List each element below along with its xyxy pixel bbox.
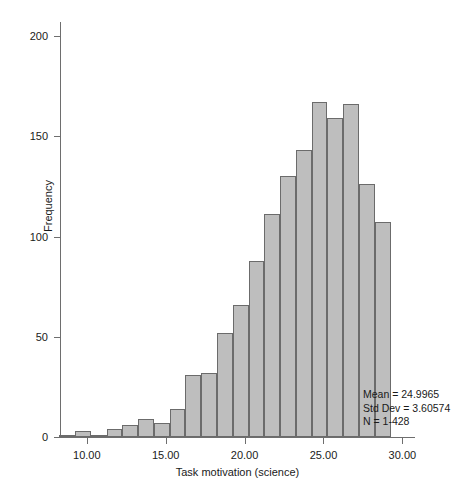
x-axis-tick-label: 15.00	[136, 449, 196, 461]
histogram-bar	[296, 150, 312, 437]
histogram-bar	[201, 373, 217, 437]
x-axis-tick	[166, 437, 167, 444]
y-axis-tick-label: 0	[0, 432, 48, 443]
stat-std-dev: Std Dev = 3.60574	[363, 402, 450, 416]
histogram-bar	[122, 425, 138, 437]
stat-n: N = 1-428	[363, 415, 450, 429]
x-axis-tick	[87, 437, 88, 444]
histogram-bar	[91, 435, 107, 437]
histogram-bar	[138, 419, 154, 437]
histogram-bar	[312, 102, 328, 437]
histogram-bar	[264, 214, 280, 437]
x-axis-tick-label: 10.00	[57, 449, 117, 461]
histogram-bar	[280, 176, 296, 437]
x-axis-tick	[323, 437, 324, 444]
histogram-bar	[343, 104, 359, 437]
x-axis-line	[60, 437, 415, 438]
histogram-bar	[185, 375, 201, 437]
y-axis-title: Frequency	[42, 146, 54, 266]
stat-mean: Mean = 24.9965	[363, 388, 450, 402]
y-axis-tick-label: 100	[0, 232, 48, 243]
x-axis-tick-label: 25.00	[293, 449, 353, 461]
histogram-bar	[154, 423, 170, 437]
y-axis-tick-label: 50	[0, 332, 48, 343]
histogram-bar	[327, 118, 343, 437]
y-axis-tick	[54, 437, 61, 438]
histogram-bars	[60, 22, 415, 437]
histogram-bar	[217, 333, 233, 437]
statistics-annotation: Mean = 24.9965 Std Dev = 3.60574 N = 1-4…	[363, 388, 450, 429]
histogram-figure: 050100150200 10.0015.0020.0025.0030.00 F…	[0, 0, 467, 493]
histogram-bar	[170, 409, 186, 437]
histogram-bar	[59, 435, 75, 437]
x-axis-title: Task motivation (science)	[60, 466, 415, 478]
histogram-bar	[107, 429, 123, 437]
x-axis-tick-label: 30.00	[372, 449, 432, 461]
histogram-bar	[249, 261, 265, 437]
histogram-bar	[75, 431, 91, 437]
histogram-bar	[233, 305, 249, 437]
x-axis-tick-label: 20.00	[215, 449, 275, 461]
x-axis-tick	[402, 437, 403, 444]
x-axis-tick	[245, 437, 246, 444]
y-axis-tick-label: 150	[0, 131, 48, 142]
y-axis-tick-label: 200	[0, 31, 48, 42]
